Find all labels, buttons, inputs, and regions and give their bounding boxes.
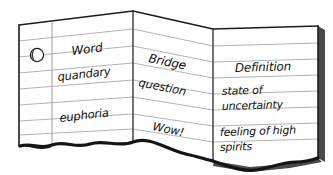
- hole-punch-icon: [30, 48, 43, 61]
- cell-definition-1-line1: state of: [222, 84, 265, 98]
- notebook-paper-illustration: Word Bridge Definition quandary question…: [0, 0, 333, 175]
- paper-svg: Word Bridge Definition quandary question…: [0, 0, 333, 175]
- header-definition: Definition: [235, 59, 292, 75]
- cell-definition-2-line1: feeling of high: [220, 124, 297, 139]
- cell-definition-1-line2: uncertainty: [222, 98, 284, 113]
- cell-definition-2-line2: spirits: [220, 140, 253, 154]
